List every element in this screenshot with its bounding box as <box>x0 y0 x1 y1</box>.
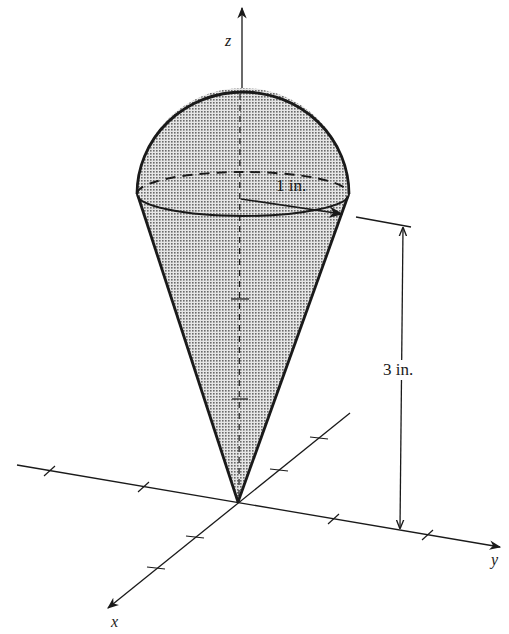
y-axis-label: y <box>491 551 498 569</box>
y-axis <box>17 465 500 547</box>
height-label: 3 in. <box>383 360 413 380</box>
cone <box>137 194 349 502</box>
radius-label: 1 in. <box>276 176 306 196</box>
z-axis-label: z <box>225 32 231 50</box>
cone-hemisphere-diagram <box>0 0 509 634</box>
hemisphere <box>137 88 349 214</box>
x-axis-label: x <box>111 613 118 631</box>
